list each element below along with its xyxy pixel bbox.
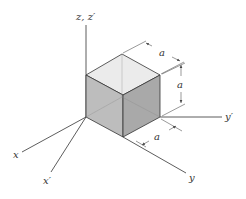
x-axis bbox=[22, 117, 86, 152]
dimension-top-label: a bbox=[159, 47, 165, 58]
dimension-vertical-label: a bbox=[177, 79, 183, 90]
z-axis-label: z, z′ bbox=[75, 11, 96, 22]
cube-axes-diagram: z, z′ x x′ y y′ a a a bbox=[0, 0, 246, 199]
dimension-bottom-label: a bbox=[154, 131, 160, 142]
y-axis bbox=[123, 137, 186, 173]
x-axis-label: x bbox=[13, 149, 19, 160]
y-axis-label: y bbox=[188, 172, 195, 183]
x-prime-axis-label: x′ bbox=[43, 175, 52, 186]
cube bbox=[86, 54, 160, 137]
x-prime-axis bbox=[51, 117, 86, 172]
y-prime-axis-label: y′ bbox=[224, 111, 234, 122]
